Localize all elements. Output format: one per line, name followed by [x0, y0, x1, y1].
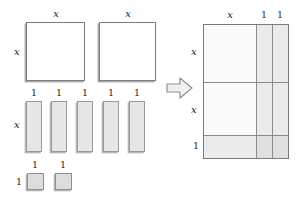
unit-tile-1-top-label: 1	[32, 160, 38, 170]
x-tile-1-top-label: 1	[31, 88, 37, 98]
x-squared-tile-2	[99, 22, 156, 81]
unit-tile-2	[55, 173, 72, 190]
x-tile-2	[51, 101, 67, 152]
x-tile-4-top-label: 1	[108, 88, 114, 98]
x-tile-1	[26, 101, 42, 152]
x-tile-4	[103, 101, 119, 152]
x-tile-3-top-label: 1	[82, 88, 88, 98]
composite-top-label-col2: 1	[261, 10, 267, 20]
unit-tile-2-top-label: 1	[60, 160, 66, 170]
figure-canvas: x x x x 1 1 1 1 1 1 1 1 x 1 1 x	[0, 0, 305, 198]
right-arrow-icon	[166, 76, 194, 100]
x-tiles-left-label: x	[14, 120, 20, 130]
x-squared-tile-1	[26, 22, 85, 81]
composite-left-label-row2: x	[191, 105, 197, 115]
x-tile-2-top-label: 1	[56, 88, 62, 98]
x-squared-tile-1-left-label: x	[14, 47, 20, 57]
x-squared-tile-2-top-label: x	[125, 9, 131, 19]
x-tile-3	[77, 101, 93, 152]
composite-left-label-row3: 1	[193, 141, 199, 151]
composite-top-label-col3: 1	[277, 10, 283, 20]
composite-left-label-row1: x	[191, 47, 197, 57]
x-squared-tile-1-top-label: x	[53, 9, 59, 19]
x-tile-5	[129, 101, 145, 152]
unit-tiles-left-label: 1	[16, 177, 22, 187]
x-tile-5-top-label: 1	[134, 88, 140, 98]
composite-top-label-col1: x	[227, 10, 233, 20]
unit-tile-1	[27, 173, 44, 190]
composite-outer-border	[203, 24, 289, 159]
